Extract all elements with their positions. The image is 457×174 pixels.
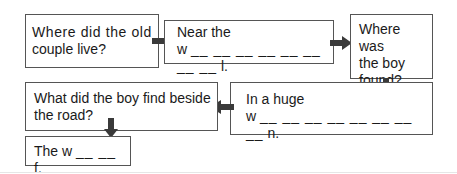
answer-end-letter: n. <box>267 125 279 141</box>
question-text-line2: the road? <box>34 107 211 124</box>
question-text-line1: Where was <box>359 21 426 55</box>
answer-start-letter: w <box>246 108 256 124</box>
answer-box-the-w-f: The w __ __ f. <box>25 136 131 166</box>
question-text-line2: the boy <box>359 55 426 72</box>
page-divider <box>0 172 457 173</box>
answer-fill-blank: w __ __ __ __ __ __ __ __ n. <box>246 108 426 142</box>
arrow-right-icon <box>330 36 352 50</box>
answer-blanks[interactable]: __ __ <box>76 143 116 159</box>
answer-text-line1: In a huge <box>246 91 426 108</box>
arrow-down-icon <box>104 118 118 138</box>
question-box-what-did-boy-find: What did the boy find beside the road? <box>25 82 218 131</box>
question-box-where-was-boy-found: Where was the boy found? <box>350 14 433 79</box>
question-text-line2: couple live? <box>32 41 152 58</box>
answer-start-letter: w <box>177 41 187 57</box>
answer-fill-blank: w __ __ __ __ __ __ __ __ l. <box>177 41 327 75</box>
question-box-where-did-couple-live: Where did the old couple live? <box>25 14 159 68</box>
answer-end-letter: l. <box>221 58 228 74</box>
answer-blanks[interactable]: __ __ __ __ __ __ __ __ <box>177 41 321 74</box>
answer-start-letter: The w <box>34 143 72 159</box>
answer-text-line1: Near the <box>177 24 327 41</box>
answer-box-near-the: Near the w __ __ __ __ __ __ __ __ l. <box>164 20 334 64</box>
question-text-line1: Where did the old <box>32 24 152 41</box>
answer-box-in-a-huge: In a huge w __ __ __ __ __ __ __ __ n. <box>230 82 433 135</box>
question-text-line1: What did the boy find beside <box>34 90 211 107</box>
